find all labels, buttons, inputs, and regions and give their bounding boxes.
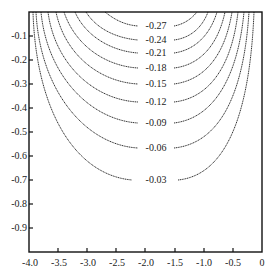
y-tick-label: -0.2 bbox=[11, 54, 27, 65]
y-tick-label: -0.3 bbox=[11, 78, 27, 89]
contour-line bbox=[33, 12, 254, 180]
contour-line bbox=[56, 12, 232, 84]
x-tick-label: 0 bbox=[260, 257, 265, 268]
y-axis: -0.1 -0.2 -0.3 -0.4 -0.5 -0.6 -0.7 -0.8 … bbox=[11, 30, 33, 233]
contour-label: -0.27 bbox=[146, 20, 167, 31]
y-tick-label: -0.1 bbox=[11, 30, 27, 41]
y-tick-label: -0.7 bbox=[11, 174, 27, 185]
contour-labels: -0.27 -0.24 -0.21 -0.18 -0.15 -0.12 -0.0… bbox=[146, 20, 167, 185]
x-tick-label: -0.5 bbox=[225, 257, 241, 268]
contour-label: -0.12 bbox=[146, 96, 167, 107]
contour-label: -0.21 bbox=[146, 47, 167, 58]
contour-lines bbox=[33, 12, 254, 180]
y-tick-label: -0.6 bbox=[11, 150, 27, 161]
y-tick-label: -0.8 bbox=[11, 198, 27, 209]
contour-label: -0.06 bbox=[146, 142, 167, 153]
x-tick-label: -3.5 bbox=[51, 257, 67, 268]
contour-label: -0.03 bbox=[146, 174, 167, 185]
x-tick-label: -1.0 bbox=[196, 257, 212, 268]
x-axis: -4.0 -3.5 -3.0 -2.5 -2.0 -1.5 -1.0 -0.5 … bbox=[22, 248, 264, 268]
x-tick-label: -3.0 bbox=[80, 257, 96, 268]
contour-label: -0.18 bbox=[146, 62, 167, 73]
y-tick-label: -0.4 bbox=[11, 102, 27, 113]
y-tick-label: -0.5 bbox=[11, 126, 27, 137]
x-tick-label: -4.0 bbox=[22, 257, 38, 268]
contour-line bbox=[36, 12, 249, 148]
contour-line bbox=[48, 12, 238, 102]
contour-label: -0.24 bbox=[146, 34, 167, 45]
contour-label: -0.15 bbox=[146, 78, 167, 89]
x-tick-label: -2.0 bbox=[138, 257, 154, 268]
contour-line bbox=[64, 12, 225, 68]
y-tick-label: -0.9 bbox=[11, 222, 27, 233]
x-tick-label: -1.5 bbox=[167, 257, 183, 268]
contour-chart: -0.27 -0.24 -0.21 -0.18 -0.15 -0.12 -0.0… bbox=[0, 0, 270, 278]
contour-label: -0.09 bbox=[146, 117, 167, 128]
x-tick-label: -2.5 bbox=[109, 257, 125, 268]
